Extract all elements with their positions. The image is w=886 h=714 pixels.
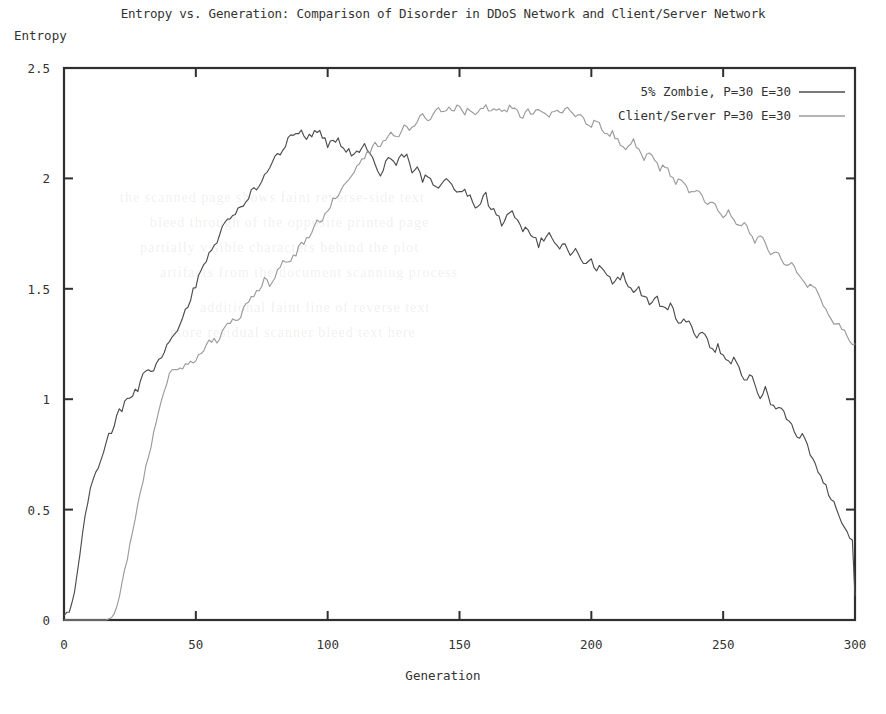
x-tick-label: 100 xyxy=(316,637,339,652)
x-tick-label: 300 xyxy=(844,637,867,652)
y-tick-label: 0 xyxy=(42,613,50,628)
chart-container: the scanned page shows faint reverse-sid… xyxy=(0,0,886,714)
axis-ticks xyxy=(64,68,855,620)
legend-label-1: 5% Zombie, P=30 E=30 xyxy=(640,84,791,99)
plot-frame xyxy=(64,68,855,620)
x-tick-label: 250 xyxy=(712,637,735,652)
legend-label-2: Client/Server P=30 E=30 xyxy=(618,108,791,123)
data-series xyxy=(64,105,855,620)
x-tick-label: 50 xyxy=(188,637,203,652)
y-tick-label: 1.5 xyxy=(27,282,50,297)
y-tick-label: 2 xyxy=(42,171,50,186)
x-tick-label: 0 xyxy=(60,637,68,652)
x-tick-label: 150 xyxy=(448,637,471,652)
y-tick-label: 1 xyxy=(42,392,50,407)
plot-area: 00.511.522.5050100150200250300 5% Zombie… xyxy=(0,0,886,714)
legend: 5% Zombie, P=30 E=30Client/Server P=30 E… xyxy=(618,84,845,123)
series-line-1 xyxy=(64,130,855,616)
x-tick-label: 200 xyxy=(580,637,603,652)
y-tick-label: 0.5 xyxy=(27,503,50,518)
axis-tick-labels: 00.511.522.5050100150200250300 xyxy=(27,61,866,652)
y-tick-label: 2.5 xyxy=(27,61,50,76)
